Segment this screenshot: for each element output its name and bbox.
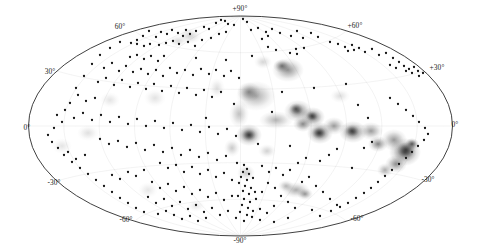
source-point <box>273 205 275 207</box>
source-point <box>265 31 267 33</box>
source-point <box>181 129 183 131</box>
source-point <box>61 121 63 123</box>
source-point <box>370 187 372 189</box>
source-point <box>119 41 121 43</box>
source-point <box>126 146 128 148</box>
source-point <box>235 217 237 219</box>
source-point <box>243 198 245 200</box>
axis-tick-label: 0° <box>24 123 31 132</box>
source-point <box>413 66 415 68</box>
source-point <box>274 187 276 189</box>
source-point <box>167 183 169 185</box>
density-blob <box>345 125 359 137</box>
source-point <box>127 123 129 125</box>
source-point <box>345 83 347 85</box>
source-point <box>344 46 346 48</box>
source-point <box>282 174 284 176</box>
source-point <box>199 173 201 175</box>
source-point <box>210 37 212 39</box>
source-point <box>271 111 273 113</box>
source-point <box>417 145 419 147</box>
source-point <box>363 192 365 194</box>
source-point <box>157 60 159 62</box>
source-point <box>207 169 209 171</box>
source-point <box>147 196 149 198</box>
source-point <box>176 72 178 74</box>
source-point <box>67 151 69 153</box>
source-point <box>218 33 220 35</box>
source-point <box>328 154 330 156</box>
source-point <box>243 164 245 166</box>
source-point <box>339 206 341 208</box>
source-point <box>56 114 58 116</box>
source-point <box>305 157 307 159</box>
source-point <box>273 221 275 223</box>
axis-tick-label: +90° <box>233 4 248 13</box>
source-point <box>317 36 319 38</box>
source-point <box>162 75 164 77</box>
source-point <box>225 59 227 61</box>
source-point <box>319 160 321 162</box>
source-point <box>357 104 359 106</box>
source-point <box>242 171 244 173</box>
sky-projection-canvas: +90°60°+60°30°+30°0°0°-30°-30°-60°-60°-9… <box>0 0 481 252</box>
source-point <box>242 190 244 192</box>
source-point <box>223 75 225 77</box>
source-point <box>207 152 209 154</box>
source-point <box>144 149 146 151</box>
source-point <box>189 33 191 35</box>
source-point <box>358 47 360 49</box>
source-point <box>257 143 259 145</box>
source-point <box>189 149 191 151</box>
source-point <box>73 117 75 119</box>
source-point <box>336 204 338 206</box>
source-point <box>143 58 145 60</box>
source-point <box>310 32 312 34</box>
source-point <box>371 141 373 143</box>
source-point <box>226 128 228 130</box>
source-point <box>163 55 165 57</box>
source-point <box>136 43 138 45</box>
axis-tick-label: -60° <box>350 214 363 223</box>
source-point <box>236 162 238 164</box>
source-point <box>246 168 248 170</box>
axis-tick-label: -90° <box>233 236 246 245</box>
source-point <box>384 175 386 177</box>
source-point <box>109 121 111 123</box>
source-point <box>227 210 229 212</box>
source-point <box>194 45 196 47</box>
source-point <box>220 91 222 93</box>
source-point <box>392 57 394 59</box>
source-point <box>135 207 137 209</box>
source-point <box>203 211 205 213</box>
source-point <box>51 141 53 143</box>
source-point <box>251 216 253 218</box>
source-point <box>142 35 144 37</box>
source-point <box>280 195 282 197</box>
source-point <box>319 215 321 217</box>
source-point <box>195 57 197 59</box>
source-point <box>100 114 102 116</box>
source-point <box>315 185 317 187</box>
source-point <box>243 220 245 222</box>
source-point <box>391 169 393 171</box>
source-point <box>151 181 153 183</box>
source-point <box>69 102 71 104</box>
source-point <box>330 210 332 212</box>
source-point <box>290 35 292 37</box>
source-point <box>159 187 161 189</box>
source-point <box>113 84 115 86</box>
source-point <box>211 96 213 98</box>
source-point <box>95 179 97 181</box>
source-point <box>294 207 296 209</box>
source-point <box>105 77 107 79</box>
source-point <box>289 145 291 147</box>
source-point <box>303 47 305 49</box>
source-point <box>143 45 145 47</box>
source-point <box>171 147 173 149</box>
source-point <box>237 195 239 197</box>
source-point <box>195 94 197 96</box>
source-point <box>127 171 129 173</box>
axis-tick-label: -30° <box>421 175 434 184</box>
source-point <box>165 42 167 44</box>
